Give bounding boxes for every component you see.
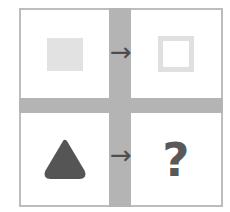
arrow-right-icon: → xyxy=(110,39,132,65)
filled-triangle-shape xyxy=(43,137,87,181)
filled-square-shape xyxy=(47,38,83,71)
horizontal-divider-band xyxy=(19,98,223,113)
question-mark-placeholder: ? xyxy=(162,136,189,183)
outlined-square-shape xyxy=(158,36,194,72)
cell-top-left[interactable] xyxy=(21,10,109,98)
analogy-puzzle: ? → → xyxy=(0,0,230,212)
cell-bottom-left[interactable] xyxy=(21,113,109,205)
cell-bottom-right[interactable]: ? xyxy=(131,113,221,205)
cell-top-right[interactable] xyxy=(131,10,221,98)
arrow-right-icon: → xyxy=(110,142,132,168)
